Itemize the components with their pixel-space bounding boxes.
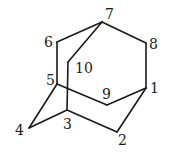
atom-label-4: 4	[15, 122, 24, 138]
bond-7-6	[57, 22, 102, 42]
atom-label-3: 3	[63, 116, 72, 132]
bond-7-8	[102, 22, 146, 43]
atom-label-7: 7	[105, 6, 114, 22]
atom-label-6: 6	[44, 34, 53, 50]
bond-7-10	[68, 22, 102, 62]
adamantane-diagram: 1 2 3 4 5 6 7 8 9 10	[0, 0, 177, 156]
labels-group: 1 2 3 4 5 6 7 8 9 10	[15, 6, 159, 148]
atom-label-10: 10	[75, 60, 93, 76]
atom-label-8: 8	[149, 36, 158, 52]
bond-10-3	[67, 62, 68, 110]
atom-label-2: 2	[118, 132, 127, 148]
atom-label-9: 9	[102, 86, 111, 102]
atom-label-5: 5	[46, 72, 55, 88]
atom-label-1: 1	[150, 80, 159, 96]
bond-2-3	[67, 110, 117, 132]
bond-5-9	[57, 84, 107, 105]
